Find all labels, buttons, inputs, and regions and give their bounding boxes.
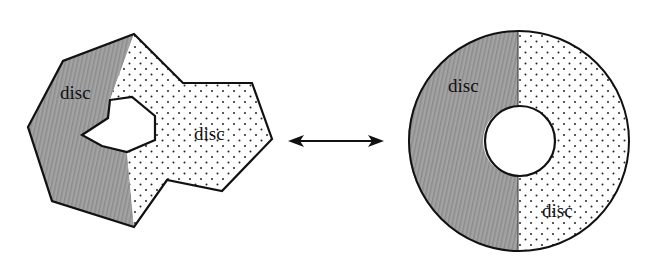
right-shape: disc disc bbox=[408, 31, 629, 251]
right-inner-hole bbox=[485, 106, 555, 176]
left-dark-label: disc bbox=[60, 82, 91, 103]
right-dark-label: disc bbox=[448, 75, 479, 96]
right-dotted-label: disc bbox=[542, 200, 573, 221]
bidirectional-arrow bbox=[288, 135, 384, 147]
left-shape: disc disc bbox=[28, 34, 272, 227]
left-dotted-label: disc bbox=[194, 123, 225, 144]
